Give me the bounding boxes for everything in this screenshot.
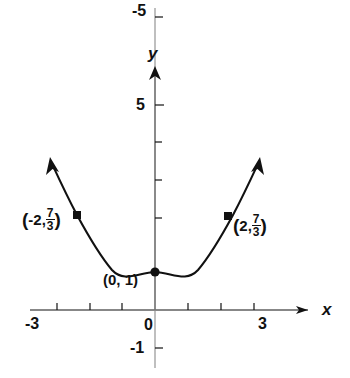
plot-canvas [0, 0, 350, 378]
data-point-marker-left [73, 211, 81, 219]
annotation-right-denominator: 3 [252, 226, 261, 238]
y-axis-tick-label-top: -5 [132, 3, 146, 19]
y-axis-ticks [155, 17, 164, 348]
annotation-left-x-value: -2, [28, 212, 46, 227]
annotation-right-x-value: 2, [239, 218, 252, 233]
y-axis-name-label: y [148, 45, 157, 62]
annotation-label-right: ( 2, 7 3 ) [233, 213, 267, 238]
annotation-right-numerator: 7 [252, 213, 261, 226]
annotation-left-close-paren: ) [55, 210, 61, 229]
graph-figure: -5 y 5 ( -2, 7 3 ) ( 2, 7 3 ) (0, 1) -3 … [0, 0, 350, 378]
annotation-label-left: ( -2, 7 3 ) [22, 207, 61, 232]
y-axis-tick-label-neg1: -1 [130, 340, 144, 356]
y-axis-tick-label-5: 5 [136, 97, 145, 113]
annotation-left-numerator: 7 [46, 207, 55, 220]
x-axis-name-label: x [322, 301, 331, 318]
data-point-marker-vertex [150, 267, 159, 276]
annotation-label-vertex: (0, 1) [103, 272, 138, 287]
annotation-left-fraction: 7 3 [46, 207, 55, 232]
annotation-right-fraction: 7 3 [252, 213, 261, 238]
data-point-marker-right [224, 212, 232, 220]
x-axis-tick-label-neg3: -3 [25, 316, 39, 332]
x-axis-tick-label-3: 3 [258, 316, 267, 332]
annotation-left-denominator: 3 [46, 220, 55, 232]
annotation-right-close-paren: ) [261, 216, 267, 235]
x-axis-tick-label-origin: 0 [144, 317, 153, 333]
